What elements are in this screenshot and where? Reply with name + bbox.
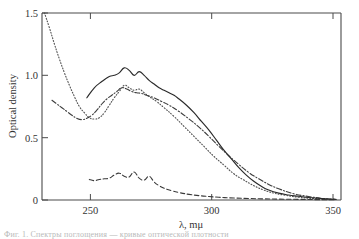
y-axis-ticks	[42, 13, 48, 200]
x-axis-ticks	[90, 13, 333, 200]
optical-density-chart: 1.5 1.0 0.5 0 250 300 350 λ, mμ Optical …	[0, 0, 359, 239]
figure-container: 1.5 1.0 0.5 0 250 300 350 λ, mμ Optical …	[0, 0, 359, 239]
series-solid-curve	[87, 68, 336, 200]
y-tick-label-1-5: 1.5	[25, 8, 38, 19]
figure-caption: Фиг. 1. Спектры поглощения — кривые опти…	[0, 230, 359, 239]
y-axis-title: Optical density	[7, 73, 18, 138]
curve-group	[44, 13, 336, 200]
y-tick-label-0-5: 0.5	[25, 133, 38, 144]
caption-strip: Фиг. 1. Спектры поглощения — кривые опти…	[0, 230, 359, 239]
series-dashed-low-curve	[89, 172, 336, 200]
plot-frame	[42, 13, 341, 200]
x-tick-label-350: 350	[325, 205, 341, 216]
y-tick-label-0: 0	[33, 195, 38, 206]
x-axis-title: λ, mμ	[179, 219, 204, 230]
y-tick-label-1-0: 1.0	[25, 70, 38, 81]
x-tick-label-300: 300	[204, 205, 220, 216]
series-dash-dot-curve	[52, 88, 336, 200]
x-tick-label-250: 250	[83, 205, 99, 216]
series-dotted-curve	[44, 13, 336, 200]
